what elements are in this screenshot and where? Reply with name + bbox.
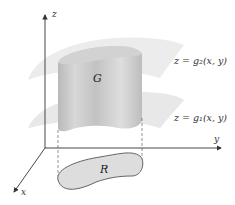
solid-g-label: G xyxy=(93,72,102,85)
y-axis-label: y xyxy=(214,134,219,144)
solid-region-diagram xyxy=(0,0,235,205)
x-axis-label: x xyxy=(21,187,26,197)
z-axis-label: z xyxy=(52,9,57,19)
upper-surface-label: z = g₂(x, y) xyxy=(174,55,227,66)
x-axis xyxy=(14,148,45,192)
region-r-label: R xyxy=(100,163,108,176)
lower-surface-label: z = g₁(x, y) xyxy=(174,112,227,123)
